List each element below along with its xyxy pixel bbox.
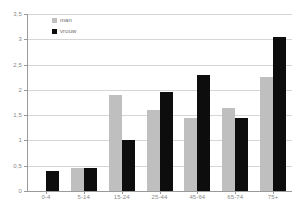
x-tick-label: 65-74 bbox=[216, 194, 254, 200]
bar-vrouw bbox=[235, 118, 248, 191]
x-tick-label: 25-44 bbox=[141, 194, 179, 200]
bar-chart: 00,511,522,533,5 0-45-1415-2425-4445-646… bbox=[0, 0, 299, 214]
bar-group bbox=[103, 14, 141, 191]
bar-man bbox=[222, 108, 235, 191]
bar-vrouw bbox=[197, 75, 210, 191]
y-tick-label: 0,5 bbox=[0, 163, 22, 169]
legend-item-vrouw: vrouw bbox=[52, 27, 77, 35]
x-tick-label: 5-14 bbox=[65, 194, 103, 200]
legend-label-vrouw: vrouw bbox=[60, 28, 77, 34]
legend-swatch-vrouw-icon bbox=[52, 29, 57, 34]
y-tick-label: 3 bbox=[0, 36, 22, 42]
bar-groups bbox=[27, 14, 292, 191]
bar-group bbox=[27, 14, 65, 191]
bar-group bbox=[216, 14, 254, 191]
bar-group bbox=[178, 14, 216, 191]
bar-vrouw bbox=[160, 92, 173, 191]
bar-man bbox=[184, 118, 197, 191]
chart-legend: man vrouw bbox=[52, 16, 77, 35]
bar-man bbox=[147, 110, 160, 191]
x-tick-label: 75+ bbox=[254, 194, 292, 200]
bar-vrouw bbox=[46, 171, 59, 191]
bar-vrouw bbox=[84, 168, 97, 191]
y-tick-label: 1,5 bbox=[0, 112, 22, 118]
legend-item-man: man bbox=[52, 16, 77, 24]
y-tick-label: 0 bbox=[0, 188, 22, 194]
x-axis-tick-labels: 0-45-1415-2425-4445-6465-7475+ bbox=[27, 194, 292, 200]
legend-label-man: man bbox=[60, 17, 72, 23]
bar-group bbox=[65, 14, 103, 191]
bar-vrouw bbox=[273, 37, 286, 191]
bar-man bbox=[109, 95, 122, 191]
x-tick-label: 0-4 bbox=[27, 194, 65, 200]
bar-vrouw bbox=[122, 140, 135, 191]
legend-swatch-man-icon bbox=[52, 18, 57, 23]
y-tick-label: 2,5 bbox=[0, 62, 22, 68]
bar-group bbox=[254, 14, 292, 191]
bar-man bbox=[260, 77, 273, 191]
x-tick-label: 15-24 bbox=[103, 194, 141, 200]
x-tick-label: 45-64 bbox=[178, 194, 216, 200]
bar-group bbox=[141, 14, 179, 191]
bar-man bbox=[71, 168, 84, 191]
y-tick-label: 1 bbox=[0, 137, 22, 143]
y-tick-label: 2 bbox=[0, 87, 22, 93]
y-tick-label: 3,5 bbox=[0, 11, 22, 17]
